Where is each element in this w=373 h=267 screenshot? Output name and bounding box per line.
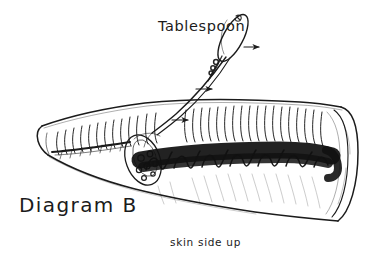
label-tablespoon: Tablespoon xyxy=(158,18,245,34)
label-diagram-b: Diagram B xyxy=(19,193,138,217)
skin-shading xyxy=(158,174,320,208)
motion-arrows xyxy=(172,47,259,120)
diagram-canvas: Tablespoon Diagram B skin side up xyxy=(0,0,373,267)
stuffing-band xyxy=(136,150,338,180)
left-seam-line xyxy=(52,142,131,159)
roast-stuffing-illustration xyxy=(0,0,373,267)
label-skin-side-up: skin side up xyxy=(170,236,241,248)
